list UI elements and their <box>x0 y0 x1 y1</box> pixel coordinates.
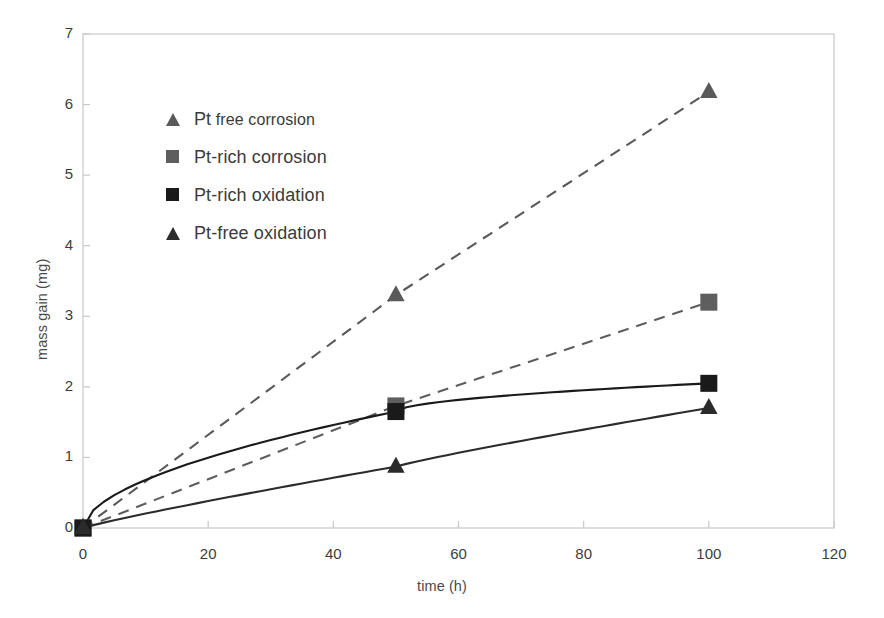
x-tick-label: 20 <box>188 545 228 562</box>
x-tick-label: 60 <box>439 545 479 562</box>
data-point-square <box>387 403 404 420</box>
legend-label-lead: Pt-rich oxidation <box>194 185 325 205</box>
legend-marker-shape <box>166 113 180 126</box>
y-tick-label: 4 <box>47 236 73 253</box>
x-tick-label: 40 <box>313 545 353 562</box>
legend-item-2: Pt-rich oxidation <box>166 176 327 214</box>
x-tick-label: 120 <box>814 545 854 562</box>
data-point-triangle <box>700 82 718 98</box>
legend-label: Pt-rich corrosion <box>194 147 327 168</box>
legend-square-icon <box>166 150 180 164</box>
y-tick-label: 7 <box>47 24 73 41</box>
data-point-square <box>700 375 717 392</box>
legend-triangle-icon <box>166 112 180 126</box>
legend-label-lead: Pt-rich corrosion <box>194 147 327 167</box>
y-tick-label: 5 <box>47 165 73 182</box>
x-tick-label: 0 <box>63 545 103 562</box>
chart-figure: mass gain (mg) time (h) 01234567 0204060… <box>0 0 884 618</box>
legend-item-3: Pt-free oxidation <box>166 214 327 252</box>
y-tick-label: 6 <box>47 95 73 112</box>
y-tick-label: 0 <box>47 518 73 535</box>
legend-square-icon <box>166 188 180 202</box>
legend-label-lead: Pt <box>194 109 211 129</box>
legend-label: Pt free corrosion <box>194 109 315 130</box>
data-point-triangle <box>700 398 718 414</box>
legend-marker-shape <box>166 188 179 201</box>
x-tick-label: 80 <box>564 545 604 562</box>
legend-item-0: Pt free corrosion <box>166 100 327 138</box>
legend-marker-shape <box>166 150 179 163</box>
data-point-square <box>700 294 717 311</box>
chart-legend: Pt free corrosionPt-rich corrosionPt-ric… <box>166 100 327 252</box>
plot-area <box>0 0 884 618</box>
legend-marker-shape <box>166 227 180 240</box>
legend-label-rest: free corrosion <box>211 111 315 128</box>
y-tick-label: 2 <box>47 377 73 394</box>
x-axis-title: time (h) <box>0 578 884 594</box>
y-tick-label: 3 <box>47 306 73 323</box>
x-tick-label: 100 <box>689 545 729 562</box>
legend-label: Pt-rich oxidation <box>194 185 325 206</box>
legend-triangle-icon <box>166 226 180 240</box>
y-tick-label: 1 <box>47 447 73 464</box>
data-point-triangle <box>387 285 405 301</box>
legend-item-1: Pt-rich corrosion <box>166 138 327 176</box>
legend-label: Pt-free oxidation <box>194 223 327 244</box>
legend-label-lead: Pt-free oxidation <box>194 223 327 243</box>
